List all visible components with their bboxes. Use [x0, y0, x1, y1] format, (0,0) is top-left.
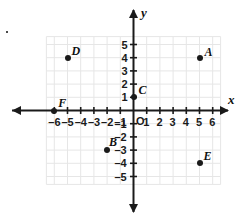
- y-tick-label: 4: [122, 53, 128, 64]
- y-tick-label: 5: [122, 40, 128, 51]
- y-tick-label: –1: [115, 119, 127, 130]
- data-point-label-e: E: [204, 150, 212, 162]
- y-tick-label: –5: [115, 172, 127, 183]
- y-axis-arrow-down: [129, 204, 138, 213]
- x-tick-label: –4: [75, 117, 87, 128]
- x-tick-label: 3: [170, 117, 176, 128]
- data-point-a: [197, 55, 203, 61]
- coordinate-plane-figure: –6–5–4–3–2–1123456–5–4–3–2–112345O ABCDE…: [0, 0, 247, 217]
- data-point-e: [197, 160, 203, 166]
- coordinate-plane-svg: [0, 0, 247, 217]
- data-point-label-c: C: [139, 84, 147, 96]
- data-point-label-f: F: [58, 97, 66, 109]
- y-tick-label: 2: [122, 79, 128, 90]
- y-axis-label: y: [141, 6, 147, 19]
- y-tick-label: 3: [122, 66, 128, 77]
- x-tick-label: –5: [62, 117, 74, 128]
- x-axis-arrow-right: [220, 106, 229, 115]
- x-tick-label: 2: [156, 117, 162, 128]
- y-tick-label: –4: [115, 158, 127, 169]
- x-tick-label: –3: [88, 117, 100, 128]
- data-point-d: [65, 55, 71, 61]
- data-point-f: [51, 108, 57, 114]
- x-tick-label: –6: [48, 117, 60, 128]
- x-tick-label: 6: [209, 117, 215, 128]
- x-tick-label: –2: [101, 117, 113, 128]
- y-tick-label: 1: [122, 92, 128, 103]
- origin-label: O: [136, 116, 145, 127]
- x-axis-arrow-left: [12, 106, 21, 115]
- x-tick-label: 4: [183, 117, 189, 128]
- x-tick-label: 5: [196, 117, 202, 128]
- x-axis-label: x: [228, 93, 235, 106]
- data-point-label-d: D: [72, 45, 81, 57]
- data-point-c: [131, 94, 137, 100]
- data-point-label-b: B: [109, 136, 117, 148]
- y-axis-arrow-up: [129, 9, 138, 18]
- data-point-label-a: A: [205, 46, 213, 58]
